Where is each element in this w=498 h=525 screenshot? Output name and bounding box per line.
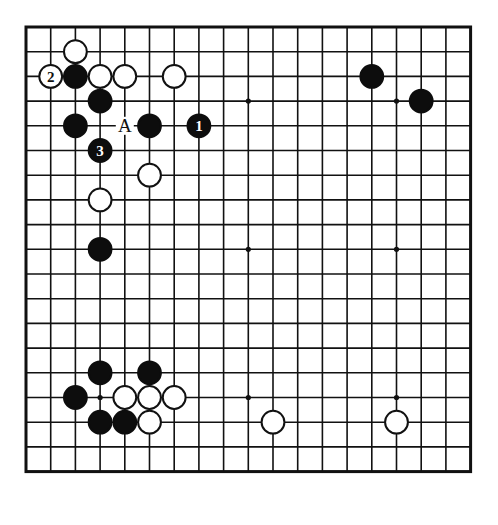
black-stone[interactable] (64, 114, 87, 137)
white-stone[interactable] (163, 65, 186, 88)
move-number-label: 2 (47, 69, 55, 85)
white-stone[interactable] (89, 65, 112, 88)
star-point (394, 247, 399, 252)
stone-disc[interactable] (89, 189, 112, 212)
point-labels-group: A (116, 115, 134, 136)
black-stone[interactable] (89, 238, 112, 261)
stone-disc[interactable] (113, 411, 136, 434)
black-stone[interactable] (113, 411, 136, 434)
stone-disc[interactable] (64, 40, 87, 63)
stone-disc[interactable] (410, 90, 433, 113)
stone-disc[interactable] (89, 411, 112, 434)
white-stone[interactable] (138, 386, 161, 409)
black-stone[interactable]: 3 (89, 139, 112, 162)
stone-disc[interactable] (89, 361, 112, 384)
black-stone[interactable] (89, 361, 112, 384)
stone-disc[interactable] (138, 114, 161, 137)
stone-disc[interactable] (89, 238, 112, 261)
black-stone[interactable] (89, 411, 112, 434)
stone-disc[interactable] (138, 361, 161, 384)
stone-disc[interactable] (138, 411, 161, 434)
star-point (98, 395, 103, 400)
white-stone[interactable] (64, 40, 87, 63)
white-stone[interactable]: 2 (39, 65, 62, 88)
white-stone[interactable] (138, 164, 161, 187)
go-board[interactable]: A 213 (0, 0, 498, 525)
star-point (394, 99, 399, 104)
stone-disc[interactable] (360, 65, 383, 88)
stone-disc[interactable] (89, 90, 112, 113)
stone-disc[interactable] (64, 65, 87, 88)
stone-disc[interactable] (262, 411, 285, 434)
black-stone[interactable]: 1 (188, 114, 211, 137)
black-stone[interactable] (138, 361, 161, 384)
star-point (246, 99, 251, 104)
white-stone[interactable] (89, 189, 112, 212)
move-number-label: 3 (96, 143, 104, 159)
star-point (246, 247, 251, 252)
white-stone[interactable] (138, 411, 161, 434)
stone-disc[interactable] (113, 386, 136, 409)
stone-disc[interactable] (138, 164, 161, 187)
black-stone[interactable] (64, 65, 87, 88)
move-number-label: 1 (195, 118, 203, 134)
white-stone[interactable] (113, 65, 136, 88)
black-stone[interactable] (89, 90, 112, 113)
black-stone[interactable] (410, 90, 433, 113)
stone-disc[interactable] (113, 65, 136, 88)
stone-disc[interactable] (64, 114, 87, 137)
black-stone[interactable] (64, 386, 87, 409)
white-stone[interactable] (262, 411, 285, 434)
stone-disc[interactable] (64, 386, 87, 409)
stone-disc[interactable] (163, 386, 186, 409)
stone-disc[interactable] (163, 65, 186, 88)
stone-disc[interactable] (138, 386, 161, 409)
stone-disc[interactable] (89, 65, 112, 88)
white-stone[interactable] (385, 411, 408, 434)
white-stone[interactable] (113, 386, 136, 409)
go-diagram: A 213 (0, 0, 498, 525)
star-point (246, 395, 251, 400)
stone-disc[interactable] (385, 411, 408, 434)
star-point (394, 395, 399, 400)
white-stone[interactable] (163, 386, 186, 409)
black-stone[interactable] (138, 114, 161, 137)
point-label-A: A (118, 115, 132, 136)
black-stone[interactable] (360, 65, 383, 88)
